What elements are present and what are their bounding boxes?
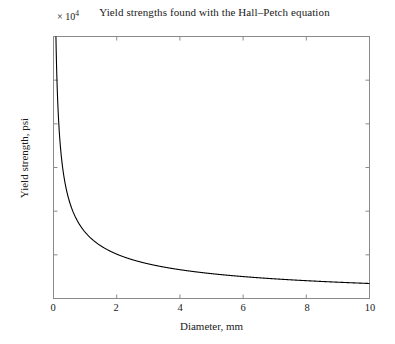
data-series-line: [56, 11, 370, 283]
tick-marks: [54, 37, 370, 299]
plot-svg: [0, 0, 395, 344]
figure-canvas: Yield strengths found with the Hall–Petc…: [0, 0, 395, 344]
axes-frame: [54, 37, 370, 299]
